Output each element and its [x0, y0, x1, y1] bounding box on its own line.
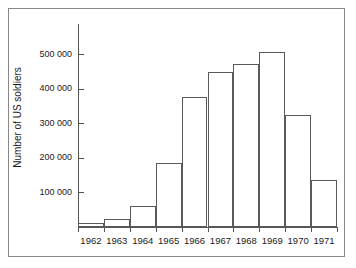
bar [311, 180, 337, 227]
x-tick-mark [311, 227, 312, 232]
y-tick-label: 300 000 [12, 119, 72, 128]
x-tick-mark [337, 227, 338, 232]
x-tick-mark [233, 227, 234, 232]
x-tick-label: 1971 [308, 235, 340, 246]
y-tick-label: 100 000 [12, 188, 72, 197]
y-tick-mark [78, 89, 84, 90]
y-tick-label-wrap: 300 000 [8, 119, 72, 128]
x-tick-mark [259, 227, 260, 232]
bar [156, 163, 182, 227]
y-tick-mark [78, 54, 84, 55]
x-tick-mark [130, 227, 131, 232]
bar [208, 72, 234, 227]
y-tick-mark [78, 123, 84, 124]
y-tick-label-wrap: 200 000 [8, 153, 72, 162]
y-tick-label-wrap: 500 000 [8, 50, 72, 59]
bar [104, 219, 130, 227]
plot-area: Number of US soldiers 100 000200 000300 … [0, 0, 356, 268]
y-tick-label: 400 000 [12, 84, 72, 93]
y-axis-title: Number of US soldiers [12, 53, 23, 183]
x-tick-mark [182, 227, 183, 232]
y-tick-label-wrap: 100 000 [8, 188, 72, 197]
bar [78, 223, 104, 227]
y-tick-mark [78, 192, 84, 193]
x-tick-mark [285, 227, 286, 232]
bar [233, 64, 259, 227]
y-tick-mark [78, 158, 84, 159]
x-tick-mark [156, 227, 157, 232]
y-tick-label: 200 000 [12, 153, 72, 162]
bar [182, 97, 208, 227]
bar [259, 52, 285, 227]
x-tick-mark [208, 227, 209, 232]
x-tick-mark [104, 227, 105, 232]
bar [285, 115, 311, 227]
x-tick-mark [78, 227, 79, 232]
y-tick-label: 500 000 [12, 50, 72, 59]
figure: Number of US soldiers 100 000200 000300 … [0, 0, 356, 268]
bar [130, 206, 156, 227]
y-tick-label-wrap: 400 000 [8, 84, 72, 93]
